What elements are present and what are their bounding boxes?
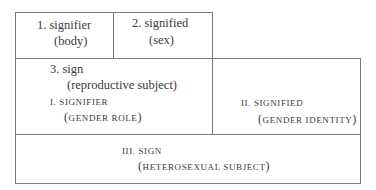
- sign-sub: (reproductive subject): [67, 78, 177, 93]
- signified-sub: (sex): [149, 33, 174, 48]
- sign-label: 3. sign: [50, 62, 83, 77]
- gender-signifier-label: I. signifier: [50, 97, 108, 107]
- gender-role-sub: (gender role): [64, 110, 142, 125]
- gender-signified-label: II. signified: [241, 98, 303, 108]
- gender-identity-sub: (gender identity): [258, 112, 357, 127]
- heterosexual-subject-sub: (heterosexual subject): [138, 159, 270, 174]
- signifier-sub: (body): [54, 34, 87, 49]
- signifier-label: 1. signifier: [37, 18, 91, 33]
- heterosexual-sign-label: III. sign: [122, 146, 162, 156]
- signified-label: 2. signified: [132, 16, 188, 31]
